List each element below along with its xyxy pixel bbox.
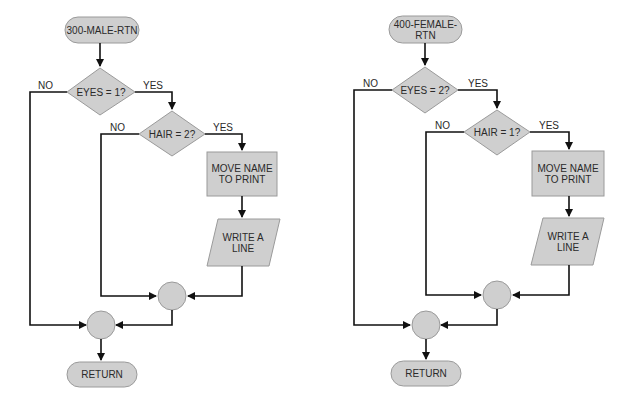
flowchart-canvas — [0, 0, 627, 406]
hair-yes-label: YES — [539, 120, 559, 131]
end-label: RETURN — [391, 361, 461, 386]
connector-outer — [412, 311, 440, 339]
output-label: WRITE A LINE — [212, 219, 274, 266]
start-label: 300-MALE-RTN — [65, 17, 139, 43]
decision-eyes-label: EYES = 2? — [392, 84, 458, 96]
decision-eyes-label: EYES = 1? — [67, 86, 135, 98]
output-label: WRITE A LINE — [537, 218, 599, 265]
hair-no-label: NO — [110, 122, 125, 133]
end-label: RETURN — [67, 362, 137, 387]
flowchart-male — [30, 17, 280, 387]
eyes-no-label: NO — [38, 80, 53, 91]
hair-yes-label: YES — [213, 122, 233, 133]
decision-hair-label: HAIR = 1? — [464, 126, 530, 138]
process-label: MOVE NAME TO PRINT — [207, 152, 277, 196]
eyes-yes-label: YES — [468, 78, 488, 89]
connector-outer — [87, 311, 115, 339]
eyes-no-label: NO — [363, 78, 378, 89]
hair-no-label: NO — [435, 120, 450, 131]
decision-hair-label: HAIR = 2? — [139, 128, 205, 140]
connector-inner — [158, 282, 186, 310]
start-label: 400-FEMALE- RTN — [389, 16, 462, 43]
eyes-yes-label: YES — [143, 80, 163, 91]
process-label: MOVE NAME TO PRINT — [532, 151, 604, 196]
flowchart-female — [354, 16, 604, 386]
connector-inner — [483, 281, 511, 309]
